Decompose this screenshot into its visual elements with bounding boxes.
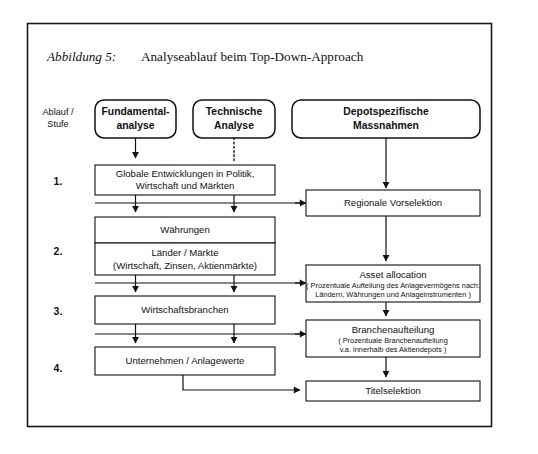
figure-container: Abbildung 5: Analyseablauf beim Top-Down… [0,0,538,454]
step-number-4: 4. [54,362,63,374]
header-technische-analyse-line2: Analyse [214,120,254,131]
wirtschaftsbranchen-line1: Wirtschaftsbranchen [141,304,228,315]
waehrungen-line1: Währungen [160,224,210,235]
header-fundamentalanalyse-line1: Fundamental- [101,106,170,117]
asset-allocation-line3: Ländern, Währungen und Anlageinstrumente… [315,290,471,299]
branchenaufteilung-line3: v.a. innerhalb des Aktiendepots ) [340,345,447,354]
laender-maerkte-line1: Länder / Märkte [151,247,218,258]
step-number-3: 3. [54,305,63,317]
arrow-row4-to-titelselektion [183,375,300,390]
header-fundamentalanalyse-line2: analyse [116,120,154,131]
header-technische-analyse-line1: Technische [206,106,263,117]
asset-allocation-line2: ( Prozentuale Aufteilung des Anlagevermö… [306,281,480,290]
axis-label-line2: Stufe [47,119,68,129]
branchenaufteilung-line2: ( Prozentuale Branchenaufteilung [338,336,448,345]
axis-label-line1: Ablauf / [42,107,74,117]
globale-entwicklungen-line2: Wirtschaft und Märkten [136,180,235,191]
step-number-2: 2. [54,245,63,257]
header-depotspezifische-line2: Massnahmen [353,120,419,131]
titelselektion-line1: Titelselektion [365,385,421,396]
unternehmen-anlagewerte-line1: Unternehmen / Anlagewerte [126,355,245,366]
step-number-1: 1. [54,175,63,187]
top-down-approach-diagram: Abbildung 5: Analyseablauf beim Top-Down… [0,0,538,454]
globale-entwicklungen-line1: Globale Entwicklungen in Politik, [116,168,255,179]
branchenaufteilung-line1: Branchenaufteilung [352,324,435,335]
asset-allocation-line1: Asset allocation [359,269,426,280]
figure-label: Abbildung 5: [46,49,116,64]
laender-maerkte-line2: (Wirtschaft, Zinsen, Aktienmärkte) [113,260,257,271]
header-depotspezifische-line1: Depotspezifische [343,106,429,117]
figure-title: Analyseablauf beim Top-Down-Approach [141,49,364,64]
regionale-vorselektion-line1: Regionale Vorselektion [344,197,442,208]
